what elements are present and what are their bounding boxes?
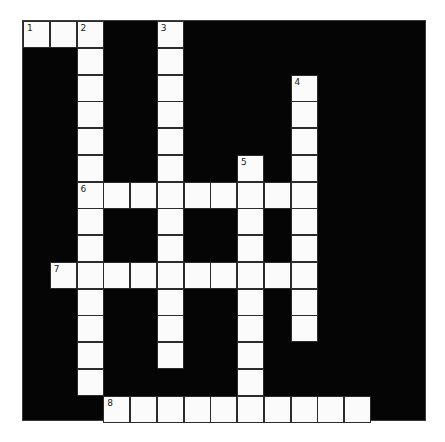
crossword-cell-r5-c8[interactable]: 5	[237, 155, 264, 182]
crossword-cell-r10-c5[interactable]	[157, 289, 184, 316]
clue-number: 4	[295, 77, 301, 87]
crossword-cell-r9-c6[interactable]	[184, 262, 211, 289]
crossword-cell-r11-c8[interactable]	[237, 315, 264, 342]
crossword-cell-r6-c2[interactable]: 6	[77, 182, 104, 209]
crossword-cell-r0-c1[interactable]	[50, 21, 77, 48]
crossword-cell-r7-c5[interactable]	[157, 208, 184, 235]
crossword-cell-r5-c10[interactable]	[291, 155, 318, 182]
crossword-cell-r6-c3[interactable]	[103, 182, 130, 209]
crossword-cell-r0-c2[interactable]: 2	[77, 21, 104, 48]
crossword-cell-r0-c0[interactable]: 1	[23, 21, 50, 48]
crossword-cell-r6-c4[interactable]	[130, 182, 157, 209]
crossword-cell-r9-c9[interactable]	[264, 262, 291, 289]
crossword-cell-r10-c2[interactable]	[77, 289, 104, 316]
crossword-cell-r4-c2[interactable]	[77, 128, 104, 155]
crossword-cell-r14-c6[interactable]	[184, 396, 211, 423]
crossword-cell-r10-c8[interactable]	[237, 289, 264, 316]
crossword-cell-r6-c5[interactable]	[157, 182, 184, 209]
crossword-cell-r14-c7[interactable]	[210, 396, 237, 423]
crossword-cell-r1-c5[interactable]	[157, 48, 184, 75]
crossword-cell-r9-c8[interactable]	[237, 262, 264, 289]
crossword-cell-r2-c10[interactable]: 4	[291, 75, 318, 102]
clue-number: 6	[81, 184, 87, 194]
crossword-cell-r14-c3[interactable]: 8	[103, 396, 130, 423]
crossword-cell-r6-c10[interactable]	[291, 182, 318, 209]
crossword-cell-r12-c5[interactable]	[157, 342, 184, 369]
crossword-cell-r9-c10[interactable]	[291, 262, 318, 289]
crossword-cell-r6-c7[interactable]	[210, 182, 237, 209]
crossword-cell-r14-c8[interactable]	[237, 396, 264, 423]
crossword-cell-r8-c10[interactable]	[291, 235, 318, 262]
crossword-cell-r7-c10[interactable]	[291, 208, 318, 235]
crossword-cell-r9-c5[interactable]	[157, 262, 184, 289]
crossword-cell-r3-c10[interactable]	[291, 101, 318, 128]
crossword-cell-r2-c5[interactable]	[157, 75, 184, 102]
crossword-cell-r4-c5[interactable]	[157, 128, 184, 155]
crossword-cell-r13-c8[interactable]	[237, 369, 264, 396]
crossword-cell-r5-c2[interactable]	[77, 155, 104, 182]
crossword-cell-r11-c2[interactable]	[77, 315, 104, 342]
crossword-cell-r2-c2[interactable]	[77, 75, 104, 102]
crossword-cell-r8-c8[interactable]	[237, 235, 264, 262]
crossword-cell-r8-c5[interactable]	[157, 235, 184, 262]
crossword-cell-r14-c11[interactable]	[317, 396, 344, 423]
crossword-cell-r7-c8[interactable]	[237, 208, 264, 235]
clue-number: 3	[161, 23, 167, 33]
crossword-cell-r5-c5[interactable]	[157, 155, 184, 182]
crossword-cell-r14-c5[interactable]	[157, 396, 184, 423]
crossword-cell-r14-c4[interactable]	[130, 396, 157, 423]
crossword-cell-r11-c10[interactable]	[291, 315, 318, 342]
crossword-cell-r9-c4[interactable]	[130, 262, 157, 289]
crossword-cell-r6-c6[interactable]	[184, 182, 211, 209]
crossword-cell-r3-c5[interactable]	[157, 101, 184, 128]
crossword-cell-r14-c10[interactable]	[291, 396, 318, 423]
crossword-grid: 12634578	[22, 20, 426, 421]
crossword-cell-r14-c9[interactable]	[264, 396, 291, 423]
crossword-cell-r6-c8[interactable]	[237, 182, 264, 209]
clue-number: 5	[241, 157, 247, 167]
clue-number: 1	[27, 23, 33, 33]
crossword-cell-r9-c1[interactable]: 7	[50, 262, 77, 289]
crossword-cell-r9-c7[interactable]	[210, 262, 237, 289]
crossword-cell-r1-c2[interactable]	[77, 48, 104, 75]
clue-number: 2	[81, 23, 87, 33]
clue-number: 7	[54, 264, 60, 274]
crossword-cell-r3-c2[interactable]	[77, 101, 104, 128]
crossword-cell-r12-c2[interactable]	[77, 342, 104, 369]
crossword-cell-r7-c2[interactable]	[77, 208, 104, 235]
crossword-cell-r11-c5[interactable]	[157, 315, 184, 342]
crossword-cell-r13-c2[interactable]	[77, 369, 104, 396]
crossword-cell-r6-c9[interactable]	[264, 182, 291, 209]
crossword-cell-r9-c2[interactable]	[77, 262, 104, 289]
crossword-cell-r4-c10[interactable]	[291, 128, 318, 155]
crossword-cell-r10-c10[interactable]	[291, 289, 318, 316]
crossword-cell-r14-c12[interactable]	[344, 396, 371, 423]
crossword-cell-r12-c8[interactable]	[237, 342, 264, 369]
crossword-cell-r9-c3[interactable]	[103, 262, 130, 289]
clue-number: 8	[107, 398, 113, 408]
crossword-cell-r8-c2[interactable]	[77, 235, 104, 262]
crossword-cell-r0-c5[interactable]: 3	[157, 21, 184, 48]
